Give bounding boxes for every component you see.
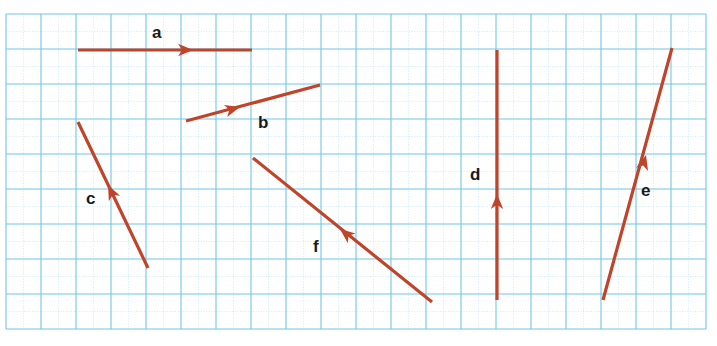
vector-label-b: b bbox=[258, 114, 268, 131]
vector-line-e bbox=[603, 48, 672, 300]
vector-label-f: f bbox=[313, 238, 319, 255]
vectors bbox=[78, 44, 672, 302]
vector-b bbox=[186, 85, 320, 121]
vector-label-c: c bbox=[86, 190, 95, 207]
vector-grid-figure: abcdef bbox=[0, 0, 717, 346]
vector-label-e: e bbox=[641, 182, 650, 199]
vector-d bbox=[491, 50, 503, 300]
vector-a bbox=[78, 44, 252, 56]
vector-line-b bbox=[186, 85, 320, 121]
vector-e bbox=[603, 48, 672, 300]
vector-diagram-canvas bbox=[0, 0, 717, 346]
vector-label-a: a bbox=[152, 24, 161, 41]
vector-f bbox=[253, 158, 432, 302]
vector-label-d: d bbox=[470, 166, 480, 183]
grid-lines bbox=[6, 14, 706, 329]
